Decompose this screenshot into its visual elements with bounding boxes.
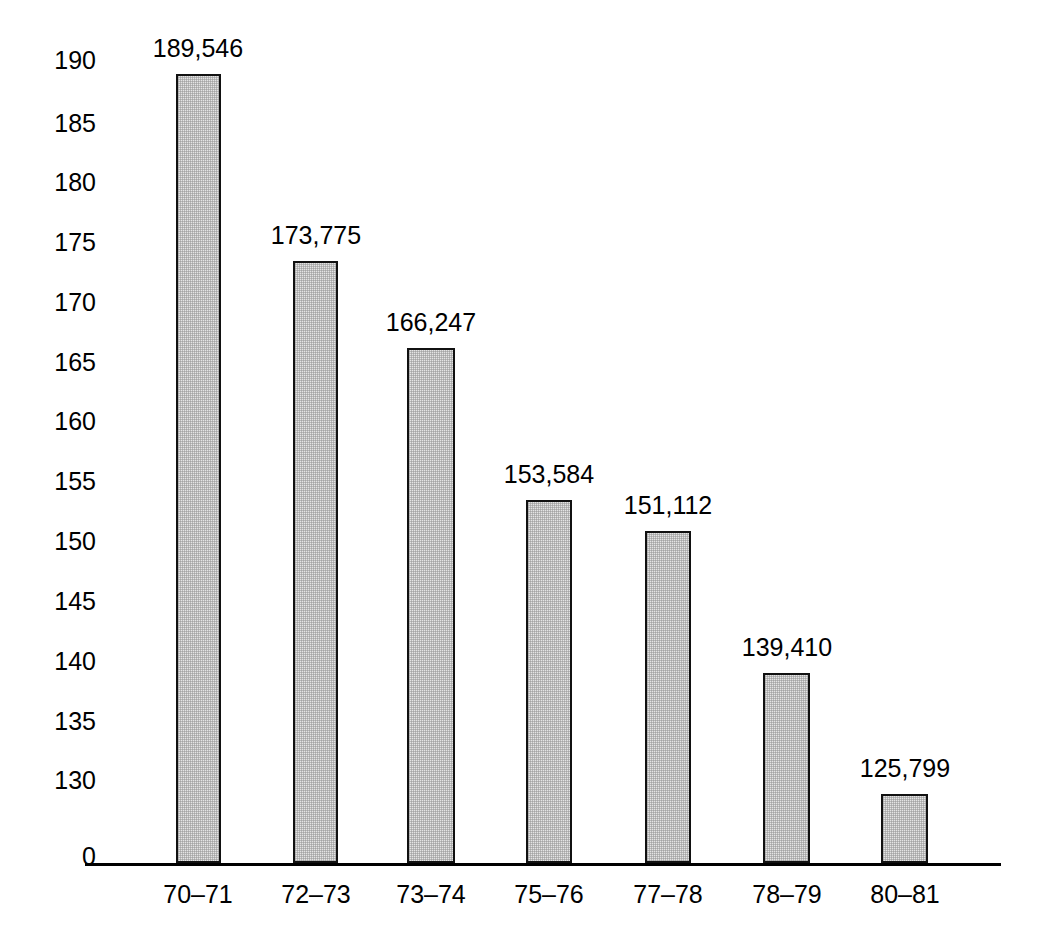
bar-80-81[interactable] — [881, 794, 928, 863]
x-axis-tick-78-79: 78–79 — [752, 882, 822, 907]
bar-72-73[interactable] — [293, 261, 338, 863]
bar-value-77-78: 151,112 — [624, 493, 713, 518]
x-axis-tick-77-78: 77–78 — [633, 882, 703, 907]
bar-75-76[interactable] — [526, 500, 572, 863]
x-axis-tick-80-81: 80–81 — [870, 882, 940, 907]
bar-chart: 190 185 180 175 170 165 160 155 150 145 … — [0, 0, 1047, 942]
bar-73-74[interactable] — [407, 348, 455, 863]
bar-value-78-79: 139,410 — [742, 635, 832, 660]
bar-value-75-76: 153,584 — [504, 462, 594, 487]
plot-area: 190 185 180 175 170 165 160 155 150 145 … — [0, 0, 1047, 942]
x-axis-tick-73-74: 73–74 — [396, 882, 466, 907]
bar-value-72-73: 173,775 — [271, 223, 361, 248]
bar-77-78[interactable] — [645, 531, 691, 863]
bar-78-79[interactable] — [763, 673, 810, 863]
bar-value-73-74: 166,247 — [386, 310, 476, 335]
bar-value-70-71: 189,546 — [153, 36, 243, 61]
x-axis-tick-72-73: 72–73 — [281, 882, 351, 907]
bar-value-80-81: 125,799 — [860, 756, 950, 781]
bar-70-71[interactable] — [176, 74, 221, 863]
x-axis-tick-75-76: 75–76 — [514, 882, 584, 907]
x-axis-tick-70-71: 70–71 — [163, 882, 233, 907]
